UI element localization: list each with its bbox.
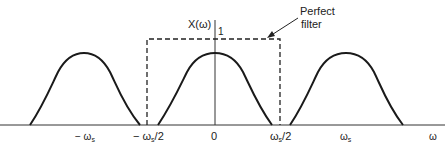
annotation-line2: filter <box>301 18 322 30</box>
annotation-arrow-line <box>270 18 298 36</box>
x-tick-neg-half-ws: − ωs/2 <box>133 130 164 143</box>
x-tick-neg-ws: − ωs <box>75 131 95 143</box>
sampling-spectrum-diagram: Perfect filter X(ω) 1 − ωs − ωs/2 0 ωs/2… <box>0 0 445 149</box>
y-axis-label: X(ω) <box>188 18 211 30</box>
x-axis-label: ω <box>429 131 437 142</box>
arrowhead-icon <box>267 31 275 38</box>
x-tick-zero: 0 <box>211 130 217 142</box>
x-tick-half-ws: ωs/2 <box>270 130 291 143</box>
spectrum-replica-left <box>30 53 140 125</box>
y-tick-one: 1 <box>218 26 224 37</box>
x-tick-ws: ωs <box>340 131 352 143</box>
spectrum-replica-right <box>290 53 403 125</box>
annotation-line1: Perfect <box>300 5 335 17</box>
